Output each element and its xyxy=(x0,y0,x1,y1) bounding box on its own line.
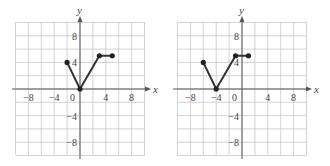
y-tick-label: 8 xyxy=(72,31,77,42)
x-axis-arrow-icon xyxy=(306,87,312,92)
data-point xyxy=(201,60,206,65)
y-axis-arrow-icon xyxy=(78,16,83,22)
graph-2: xy−8−404884−4−8 xyxy=(173,4,319,159)
x-tick-label: −4 xyxy=(49,92,60,103)
y-axis-label: y xyxy=(76,4,82,16)
x-tick-label: 0 xyxy=(232,92,237,103)
x-tick-label: 4 xyxy=(103,92,108,103)
y-tick-label: −4 xyxy=(228,111,239,122)
x-tick-label: −4 xyxy=(211,92,222,103)
y-tick-label: −4 xyxy=(66,111,77,122)
x-tick-label: 8 xyxy=(291,92,296,103)
x-tick-label: 8 xyxy=(129,92,134,103)
x-tick-label: −8 xyxy=(185,92,196,103)
x-tick-label: −8 xyxy=(23,92,34,103)
y-axis-label: y xyxy=(238,4,244,16)
data-point xyxy=(65,60,70,65)
x-axis-arrow-icon xyxy=(145,87,151,92)
x-axis-label: x xyxy=(152,83,158,95)
data-point xyxy=(214,86,219,91)
data-point xyxy=(77,86,82,91)
data-point xyxy=(246,53,251,58)
data-point xyxy=(97,53,102,58)
y-tick-label: −8 xyxy=(66,137,77,148)
y-tick-label: −8 xyxy=(228,137,239,148)
x-tick-label: 0 xyxy=(70,92,75,103)
data-point xyxy=(233,53,238,58)
data-point xyxy=(110,53,115,58)
x-axis-label: x xyxy=(313,83,319,95)
graphs-svg: xy−8−404884−4−8xy−8−404884−4−8 xyxy=(0,0,330,166)
y-tick-label: 8 xyxy=(234,31,239,42)
x-tick-label: 4 xyxy=(265,92,270,103)
graph-1: xy−8−404884−4−8 xyxy=(12,4,158,159)
y-tick-label: 4 xyxy=(72,57,77,68)
y-axis-arrow-icon xyxy=(240,16,245,22)
